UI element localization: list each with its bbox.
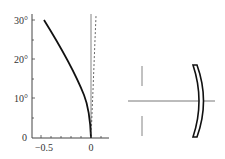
y-tick-label: 20°	[14, 54, 28, 65]
solid-curve	[44, 20, 91, 138]
lens-diagram	[128, 65, 215, 137]
y-tick-label: 30°	[14, 15, 28, 26]
aberration-plot: 0 10° 20° 30° −0.5 0	[14, 14, 109, 153]
y-tick-label: 10°	[14, 93, 28, 104]
dashed-curve	[91, 16, 96, 138]
y-tick-label: 0	[22, 132, 27, 143]
figure: 0 10° 20° 30° −0.5 0	[0, 0, 225, 159]
x-tick-label: −0.5	[35, 142, 53, 153]
x-tick-label: 0	[89, 142, 94, 153]
